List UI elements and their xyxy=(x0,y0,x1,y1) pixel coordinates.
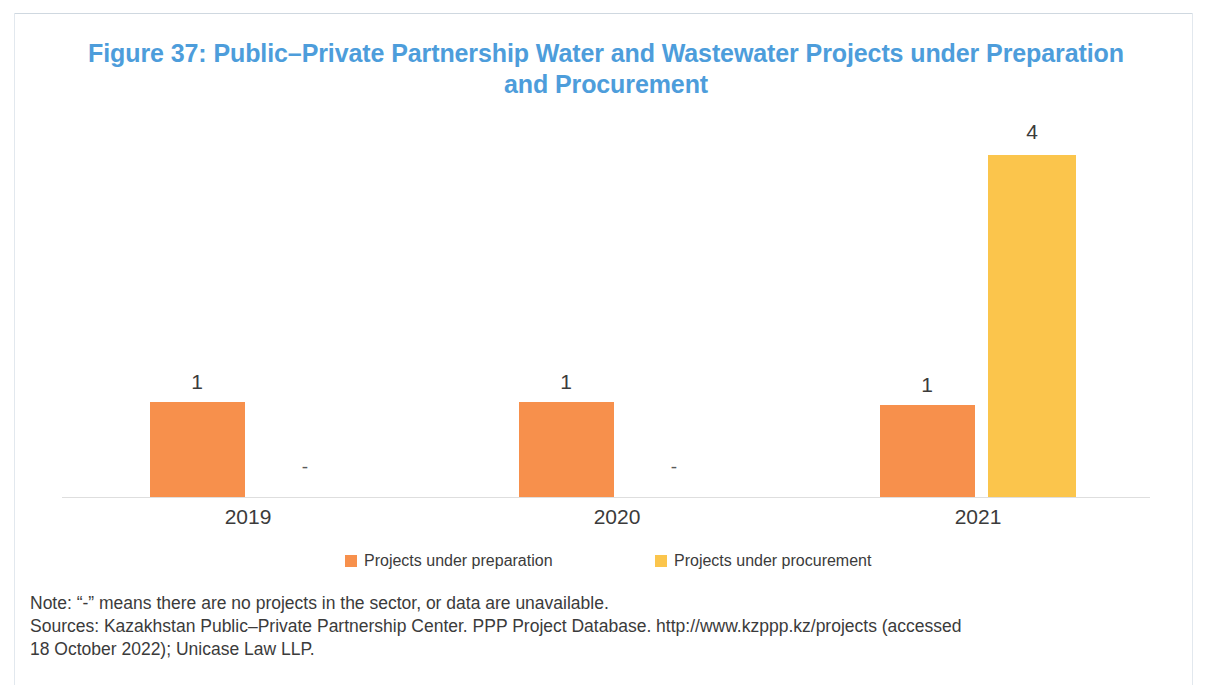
bar-label-2020-procurement: - xyxy=(644,462,704,472)
footnote-sources-line-2: 18 October 2022); Unicase Law LLP. xyxy=(30,638,1170,661)
bar-label-2019-procurement: - xyxy=(275,462,335,472)
bar-label-2019-preparation: 1 xyxy=(167,370,227,394)
x-axis-baseline xyxy=(62,497,1150,498)
legend-label-procurement: Projects under procurement xyxy=(674,552,871,570)
chart-legend: Projects under preparation Projects unde… xyxy=(0,552,1205,576)
footnote-sources-line-1: Sources: Kazakhstan Public–Private Partn… xyxy=(30,615,1170,638)
figure-page: Figure 37: Public–Private Partnership Wa… xyxy=(0,0,1205,698)
legend-swatch-procurement-icon xyxy=(655,555,667,567)
bar-2021-preparation xyxy=(880,405,975,497)
legend-swatch-preparation-icon xyxy=(345,555,357,567)
footnote-note: Note: “-” means there are no projects in… xyxy=(30,592,1170,615)
figure-footnotes: Note: “-” means there are no projects in… xyxy=(30,592,1170,661)
x-axis-label-2020: 2020 xyxy=(567,505,667,529)
bar-2020-preparation xyxy=(519,402,614,497)
legend-item-preparation[interactable]: Projects under preparation xyxy=(345,552,553,570)
bar-2019-preparation xyxy=(150,402,245,497)
bar-2021-procurement xyxy=(988,155,1076,497)
chart-plot-area: 1 - 1 - 1 4 2019 2020 2021 xyxy=(0,0,1205,520)
legend-item-procurement[interactable]: Projects under procurement xyxy=(655,552,871,570)
x-axis-label-2021: 2021 xyxy=(928,505,1028,529)
legend-label-preparation: Projects under preparation xyxy=(364,552,553,570)
bar-label-2021-procurement: 4 xyxy=(1002,120,1062,144)
x-axis-label-2019: 2019 xyxy=(198,505,298,529)
bar-label-2021-preparation: 1 xyxy=(897,373,957,397)
bar-label-2020-preparation: 1 xyxy=(536,370,596,394)
